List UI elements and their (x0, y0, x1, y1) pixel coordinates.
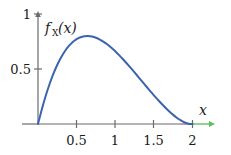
chart-svg: 1 0.5 0.5 1 1.5 2 f X (x) x (0, 0, 231, 155)
x-tick-label-0point5: 0.5 (66, 133, 87, 148)
y-tick-label-0point5: 0.5 (10, 62, 31, 77)
density-plot-figure: 1 0.5 0.5 1 1.5 2 f X (x) x (0, 0, 231, 155)
x-tick-label-2: 2 (188, 133, 196, 148)
x-axis-label: x (199, 102, 207, 118)
y-tick-label-1: 1 (23, 7, 31, 22)
y-axis-label: f X (x) (44, 20, 77, 38)
y-axis-label-argument: (x) (58, 20, 77, 36)
x-tick-label-1: 1 (111, 133, 119, 148)
x-tick-label-1point5: 1.5 (143, 133, 164, 148)
plot-background (0, 0, 231, 155)
